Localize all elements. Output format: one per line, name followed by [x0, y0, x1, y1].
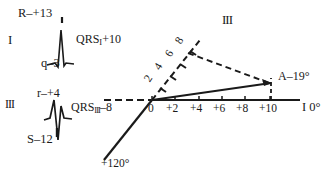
lead3-qrs-value: –8: [100, 100, 112, 114]
lead3-angle-label: +120°: [101, 158, 129, 170]
lead3-name-label: III: [5, 98, 14, 110]
resultant-vector-line: [152, 83, 271, 100]
lead3-axis-label: III: [222, 13, 232, 26]
tick-label-10: +10: [259, 103, 277, 115]
lead1-qrs-value: +10: [102, 32, 121, 46]
tick-label-6: +6: [213, 103, 225, 115]
lead3-s-amplitude-label: S–12: [27, 133, 53, 146]
ecg-axis-figure: R–+13 I QRSI+10 q–3 r–+4 III QRSIII–8 S–…: [0, 0, 328, 181]
construction-line-lead3: [188, 53, 272, 84]
lead3-qrs-text: QRS: [71, 100, 94, 114]
tick-label-2: +2: [166, 103, 178, 115]
lead3-axis-ticks: [160, 51, 196, 92]
lead3-r-amplitude-label: r–+4: [37, 87, 60, 99]
tick-label-4: +4: [190, 103, 202, 115]
tick-label-8: +8: [236, 103, 248, 115]
lead1-name-label: I: [8, 33, 12, 46]
lead1-qrs-label: QRSI+10: [76, 33, 121, 47]
tick-label-0: 0: [148, 103, 154, 115]
lead3-qrs-label: QRSIII–8: [71, 101, 112, 115]
resultant-axis-label: A–19°: [278, 70, 309, 82]
lead1-axis-label: I 0°: [302, 101, 321, 114]
lead1-q-amplitude-label: q–3: [41, 57, 60, 70]
lead1-qrs-text: QRS: [76, 32, 99, 46]
lead1-r-amplitude-label: R–+13: [18, 7, 52, 20]
